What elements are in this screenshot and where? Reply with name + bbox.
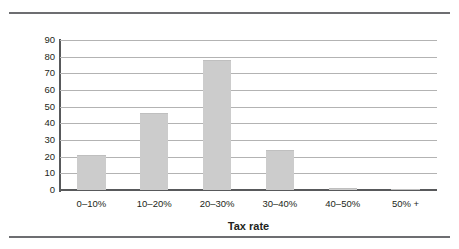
- bar: [203, 60, 231, 190]
- bar-series: [60, 40, 437, 190]
- bar-slot: [186, 40, 249, 190]
- y-tick-label: 10: [44, 169, 55, 179]
- y-tick-label: 40: [44, 119, 55, 129]
- y-tick-label: 30: [44, 135, 55, 145]
- bar-slot: [311, 40, 374, 190]
- x-tick-label: 30–40%: [248, 198, 311, 209]
- bar-slot: [248, 40, 311, 190]
- top-rule: [9, 12, 450, 14]
- y-tick-label: 90: [44, 35, 55, 45]
- y-tick-label: 60: [44, 85, 55, 95]
- bottom-rule: [9, 236, 450, 238]
- y-tick-label: 70: [44, 69, 55, 79]
- bar: [140, 113, 168, 190]
- figure: Number of countries 0102030405060708090 …: [0, 0, 459, 249]
- bar: [266, 150, 294, 190]
- bar: [77, 155, 105, 190]
- x-tick-label: 0–10%: [60, 198, 123, 209]
- plot-area: 0102030405060708090: [60, 40, 437, 190]
- bar: [391, 189, 419, 190]
- y-tick-label: 0: [50, 185, 55, 195]
- bar-slot: [374, 40, 437, 190]
- x-tick-label: 10–20%: [123, 198, 186, 209]
- x-tick-label: 40–50%: [311, 198, 374, 209]
- x-axis-title: Tax rate: [60, 220, 437, 232]
- bar-chart: Number of countries 0102030405060708090 …: [0, 24, 459, 232]
- x-axis-tick-labels: 0–10%10–20%20–30%30–40%40–50%50% +: [60, 198, 437, 209]
- y-tick-label: 20: [44, 152, 55, 162]
- bar: [329, 188, 357, 190]
- y-tick-label: 80: [44, 52, 55, 62]
- bar-slot: [123, 40, 186, 190]
- x-tick-label: 20–30%: [186, 198, 249, 209]
- bar-slot: [60, 40, 123, 190]
- y-tick-label: 50: [44, 102, 55, 112]
- x-tick-label: 50% +: [374, 198, 437, 209]
